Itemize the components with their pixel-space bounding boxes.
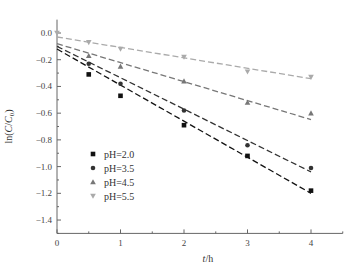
x-tick-label: 2	[182, 238, 187, 248]
legend-item: pH=2.0	[91, 149, 135, 160]
y-tick-label: −0.4	[36, 81, 53, 91]
y-tick-label: 0.0	[41, 28, 53, 38]
y-tick-label: −0.2	[36, 55, 52, 65]
y-tick-label: −0.8	[36, 135, 53, 145]
legend-label: pH=5.5	[104, 191, 134, 202]
legend-item: pH=4.5	[90, 177, 134, 188]
x-tick-label: 3	[245, 238, 250, 248]
x-tick-label: 1	[118, 238, 123, 248]
chart: 012340.0−0.2−0.4−0.6−0.8−1.0−1.2−1.4t/hl…	[0, 0, 357, 269]
y-tick-label: −1.2	[36, 188, 52, 198]
x-axis-label: t/h	[203, 253, 214, 264]
legend: pH=2.0pH=3.5pH=4.5pH=5.5	[90, 149, 134, 202]
legend-item: pH=5.5	[90, 191, 134, 202]
legend-label: pH=3.5	[104, 163, 134, 174]
legend-item: pH=3.5	[91, 163, 135, 174]
x-tick-label: 4	[309, 238, 314, 248]
fit-lines	[57, 37, 311, 193]
legend-label: pH=2.0	[104, 149, 134, 160]
y-tick-label: −1.0	[36, 162, 53, 172]
y-tick-label: −1.4	[36, 215, 53, 225]
legend-label: pH=4.5	[104, 177, 134, 188]
fit-line-0	[57, 49, 311, 193]
x-tick-label: 0	[55, 238, 60, 248]
y-axis-label: ln(C/C0)	[3, 109, 16, 143]
y-tick-label: −0.6	[36, 108, 53, 118]
